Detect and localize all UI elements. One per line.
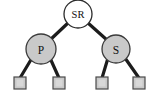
root-node: SR <box>64 0 92 28</box>
edge-left-internal-to-leaf-2 <box>50 58 59 78</box>
leaf-group <box>14 77 145 89</box>
internal-node-left: P <box>26 34 56 64</box>
node-label-s: S <box>113 44 119 56</box>
leaf-square-3-inner <box>99 80 106 87</box>
tree-diagram-figure: P S SR <box>0 0 153 112</box>
tree-diagram-canvas: P S SR <box>0 0 153 112</box>
edge-right-internal-to-leaf-4 <box>125 58 139 78</box>
leaf-node-3 <box>96 77 108 89</box>
edge-root-to-right-internal <box>88 23 107 40</box>
edge-root-to-left-internal <box>50 23 68 40</box>
leaf-node-4 <box>133 77 145 89</box>
edge-left-internal-to-leaf-1 <box>20 58 32 78</box>
leaf-square-2-inner <box>56 80 63 87</box>
node-label-sr: SR <box>72 9 85 20</box>
leaf-square-4-inner <box>136 80 143 87</box>
leaf-square-1-inner <box>17 80 24 87</box>
internal-node-right: S <box>102 35 130 63</box>
leaf-node-1 <box>14 77 26 89</box>
node-label-p: P <box>38 44 44 56</box>
leaf-node-2 <box>53 77 65 89</box>
edge-right-internal-to-leaf-3 <box>102 58 108 78</box>
